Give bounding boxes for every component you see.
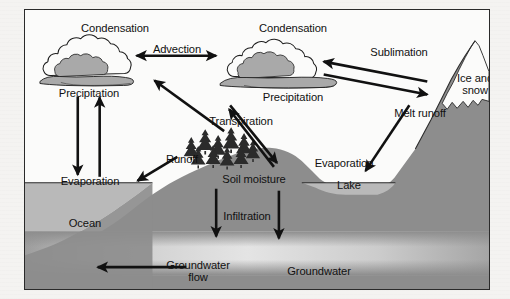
label-transpiration: Transpiration (209, 115, 273, 127)
label-lake: Lake (337, 179, 361, 191)
cloud-right (220, 39, 336, 88)
label-evaporation-left: Evaporation (61, 175, 120, 187)
label-condensation-left: Condensation (81, 22, 149, 34)
label-sublimation: Sublimation (370, 46, 427, 58)
label-soil-moisture: Soil moisture (222, 173, 285, 185)
label-evaporation-right: Evaporation (315, 157, 374, 169)
cloud-left (40, 35, 134, 86)
label-runoff: Runoff (166, 153, 198, 165)
label-groundwater-flow: Groundwater flow (158, 259, 238, 283)
label-groundwater: Groundwater (287, 265, 351, 277)
water-cycle-figure: Condensation Condensation Advection Subl… (0, 0, 510, 299)
diagram-frame: Condensation Condensation Advection Subl… (24, 9, 490, 290)
label-precipitation-left: Precipitation (59, 87, 119, 99)
label-ocean: Ocean (69, 217, 101, 229)
label-advection: Advection (153, 43, 201, 55)
label-infiltration: Infiltration (223, 210, 270, 222)
label-precipitation-right: Precipitation (263, 91, 323, 103)
label-condensation-right: Condensation (259, 22, 327, 34)
label-melt-runoff: Melt runoff (390, 107, 450, 119)
label-ice-and-snow: Ice and snow (445, 72, 490, 96)
